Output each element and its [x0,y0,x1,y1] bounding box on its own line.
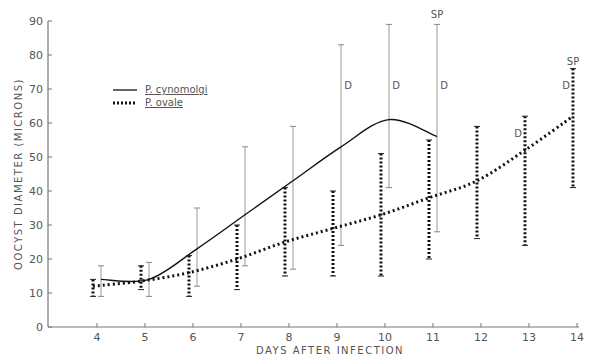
series-cynomolgi: DDDSP [98,9,448,297]
y-tick-label: 60 [29,117,43,130]
annotation-d: D [440,80,448,91]
y-tick-label: 40 [29,185,43,198]
mean-line [101,119,437,281]
y-axis-label: OOCYST DIAMETER (MICRONS) [13,78,24,270]
x-tick-label: 5 [142,331,149,344]
x-tick-label: 8 [286,331,293,344]
legend: P. cynomolgiP. ovale [113,84,207,108]
y-tick-label: 80 [29,49,43,62]
legend-label: P. cynomolgi [145,84,207,95]
annotation-d: D [514,128,522,139]
x-tick-label: 4 [94,331,101,344]
x-tick-label: 6 [190,331,197,344]
x-axis-label: DAYS AFTER INFECTION [256,345,404,356]
annotation-sp: SP [567,56,579,67]
axes: 01020304050607080904567891011121314 [29,15,584,344]
y-tick-label: 10 [29,287,43,300]
x-tick-label: 10 [378,331,392,344]
series-layer: DDDSPDDSP [90,9,579,297]
y-tick-label: 0 [36,321,43,334]
annotation-d: D [392,80,400,91]
x-tick-label: 12 [474,331,488,344]
x-tick-label: 9 [334,331,341,344]
y-tick-label: 50 [29,151,43,164]
y-tick-label: 90 [29,15,43,28]
annotation-d: D [562,80,570,91]
y-tick-label: 20 [29,253,43,266]
annotation-sp: SP [431,9,443,20]
x-tick-label: 11 [426,331,440,344]
y-tick-label: 70 [29,83,43,96]
x-tick-label: 13 [522,331,536,344]
x-tick-label: 7 [238,331,245,344]
annotation-d: D [344,80,352,91]
chart-canvas: 01020304050607080904567891011121314 DDDS… [0,0,605,362]
y-tick-label: 30 [29,219,43,232]
legend-label: P. ovale [145,97,183,108]
x-tick-label: 14 [570,331,584,344]
